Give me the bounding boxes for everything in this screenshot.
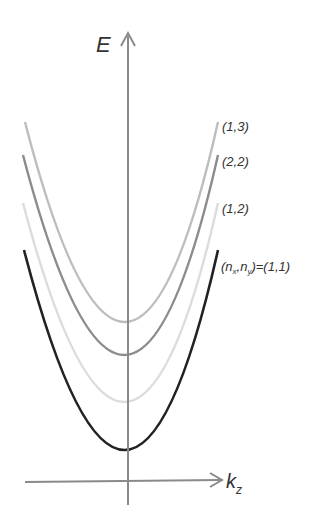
kz-axis — [25, 480, 220, 482]
band-label-1-1: (nx,ny)=(1,1) — [221, 259, 290, 276]
band-label-2-2: (2,2) — [222, 154, 249, 169]
band-label-1-2: (1,2) — [222, 201, 249, 216]
kz-axis-label: kz — [226, 470, 242, 497]
band-1-1-curve — [24, 250, 218, 450]
band-label-1-3: (1,3) — [222, 119, 249, 134]
band-2-2-curve — [23, 155, 218, 355]
energy-axis-label: E — [96, 32, 111, 57]
subband-dispersion-diagram: E kz (1,3) (2,2) (1,2) (nx,ny)=(1,1) — [0, 0, 323, 520]
band-1-3-curve — [25, 122, 218, 322]
